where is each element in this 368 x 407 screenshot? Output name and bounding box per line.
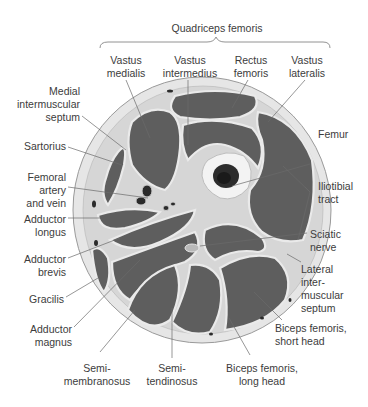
label-line: Vastus <box>98 54 154 67</box>
sciatic-nerve <box>185 244 199 252</box>
label-line: membranosus <box>62 375 132 388</box>
label-line: Sciatic <box>310 228 341 241</box>
label-line: magnus <box>4 336 72 349</box>
label-semimembranosus: Semi- membranosus <box>62 362 132 388</box>
biceps-femoris-long-head-muscle <box>220 256 288 330</box>
label-line: medialis <box>98 67 154 80</box>
quadriceps-bracket <box>100 37 330 48</box>
label-line: Gracilis <box>4 293 64 306</box>
label-line: Biceps femoris, <box>220 362 304 375</box>
label-line: Vastus <box>282 54 332 67</box>
label-line: intermuscular <box>4 98 80 111</box>
label-femoral-artery-vein: Femoral artery and vein <box>4 171 66 210</box>
label-line: Lateral <box>301 263 344 276</box>
label-rectus-femoris: Rectus femoris <box>228 54 274 80</box>
label-adductor-longus: Adductor longus <box>4 213 66 239</box>
label-sartorius: Sartorius <box>4 140 66 153</box>
label-lateral-intermuscular-septum: Lateral inter- muscular septum <box>301 263 344 315</box>
label-line: tendinosus <box>142 375 202 388</box>
label-line: Femur <box>318 128 348 141</box>
label-line: muscular <box>301 289 344 302</box>
label-line: long head <box>220 375 304 388</box>
label-medial-intermuscular-septum: Medial intermuscular septum <box>4 85 80 124</box>
label-adductor-magnus: Adductor magnus <box>4 323 72 349</box>
label-line: longus <box>4 226 66 239</box>
label-vastus-lateralis: Vastus lateralis <box>282 54 332 80</box>
label-line: intermedius <box>158 67 222 80</box>
label-vastus-medialis: Vastus medialis <box>98 54 154 80</box>
label-line: and vein <box>4 197 66 210</box>
label-iliotibial-tract: Iliotibial tract <box>318 180 353 206</box>
label-biceps-femoris-short-head: Biceps femoris, short head <box>275 322 347 348</box>
label-line: Medial <box>4 85 80 98</box>
label-line: artery <box>4 184 66 197</box>
label-line: Iliotibial <box>318 180 353 193</box>
label-line: nerve <box>310 241 341 254</box>
label-line: brevis <box>4 266 66 279</box>
rectus-femoris-muscle <box>171 91 257 120</box>
label-line: inter- <box>301 276 344 289</box>
label-line: septum <box>301 302 344 315</box>
label-line: Biceps femoris, <box>275 322 347 335</box>
label-line: short head <box>275 335 347 348</box>
label-line: Rectus <box>228 54 274 67</box>
label-line: Semi- <box>62 362 132 375</box>
label-line: Vastus <box>158 54 222 67</box>
label-line: septum <box>4 111 80 124</box>
label-biceps-femoris-long-head: Biceps femoris, long head <box>220 362 304 388</box>
label-line: Adductor <box>4 213 66 226</box>
label-line: Adductor <box>4 253 66 266</box>
gracilis-muscle <box>92 248 109 292</box>
label-adductor-brevis: Adductor brevis <box>4 253 66 279</box>
label-line: lateralis <box>282 67 332 80</box>
label-sciatic-nerve: Sciatic nerve <box>310 228 341 254</box>
label-line: Femoral <box>4 171 66 184</box>
label-vastus-intermedius: Vastus intermedius <box>158 54 222 80</box>
label-line: femoris <box>228 67 274 80</box>
label-line: tract <box>318 193 353 206</box>
label-femur: Femur <box>318 128 348 141</box>
label-quadriceps-femoris: Quadriceps femoris <box>165 22 269 35</box>
label-line: Adductor <box>4 323 72 336</box>
label-gracilis: Gracilis <box>4 293 64 306</box>
label-line: Semi- <box>142 362 202 375</box>
label-semitendinosus: Semi- tendinosus <box>142 362 202 388</box>
label-line: Sartorius <box>4 140 66 153</box>
